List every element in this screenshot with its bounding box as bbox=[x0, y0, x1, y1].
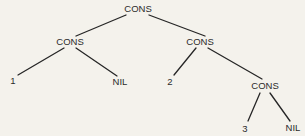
leaf-1: 1 bbox=[10, 76, 15, 86]
leaf-2: 2 bbox=[167, 77, 172, 87]
edge-root-left bbox=[76, 15, 126, 36]
edge-root-right bbox=[149, 15, 205, 36]
cons-tree-diagram: CONS CONS CONS 1 NIL 2 CONS 3 NIL bbox=[0, 0, 305, 136]
node-right-cons: CONS bbox=[186, 37, 213, 47]
tree-edges bbox=[0, 0, 305, 136]
edge-left-leaf1 bbox=[18, 48, 64, 75]
leaf-3: 3 bbox=[242, 124, 247, 134]
edge-right-leaf2 bbox=[174, 48, 196, 75]
node-root-cons: CONS bbox=[124, 4, 151, 14]
edge-bottom-nil2 bbox=[270, 93, 290, 121]
edge-right-bottom bbox=[208, 48, 262, 79]
edge-bottom-leaf3 bbox=[248, 93, 260, 121]
node-left-cons: CONS bbox=[56, 37, 83, 47]
leaf-nil-right: NIL bbox=[286, 123, 301, 133]
node-bottom-cons: CONS bbox=[251, 81, 278, 91]
leaf-nil-left: NIL bbox=[113, 77, 128, 87]
edge-left-nil1 bbox=[76, 48, 117, 76]
